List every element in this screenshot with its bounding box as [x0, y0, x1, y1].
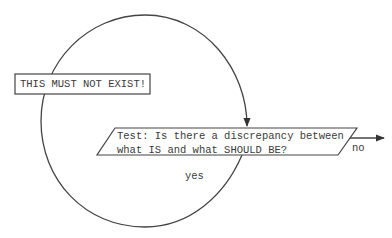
no-label: no: [352, 143, 365, 154]
decision-label: Test: Is there a discrepancy between wha…: [117, 129, 344, 157]
decision-line-1: Test: Is there a discrepancy between: [117, 129, 344, 143]
diagram-canvas: [0, 0, 392, 238]
yes-loop-edge: [41, 15, 247, 227]
state-box-label: THIS MUST NOT EXIST!: [20, 79, 146, 90]
decision-line-2: what IS and what SHOULD BE?: [117, 143, 344, 157]
yes-label: yes: [185, 171, 204, 182]
